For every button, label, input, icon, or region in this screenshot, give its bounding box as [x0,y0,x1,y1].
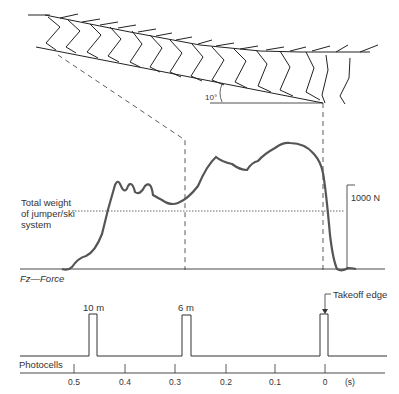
ski-jumper-sequence [28,14,378,104]
force-curve [62,143,356,270]
takeoff-label: Takeoff edge [333,289,387,300]
tick-label: 0.2 [220,377,232,387]
angle-label: 10° [205,92,217,103]
axis-ticks [74,364,325,373]
tick-label: 0 [323,377,328,387]
tick-label: 0.4 [119,377,131,387]
projection-lines [58,55,323,270]
time-unit: (s) [345,377,355,387]
weight-label-1: Total weight [21,197,71,208]
photocells-label: Photocells [19,359,63,370]
angle-arc [220,84,222,102]
tick-label: 0.1 [269,377,281,387]
tick-label: 0.3 [169,377,181,387]
tick-label: 0.5 [68,377,80,387]
force-axis-label: Fz—Force [20,273,64,284]
scale-label: 1000 N [351,193,380,204]
pulse-label-6m: 6 m [178,302,194,313]
arrowhead-icon [322,309,328,314]
photocell-signal [20,314,387,356]
weight-label-2: of jumper/ski [21,208,75,219]
pulse-label-10m: 10 m [83,302,104,313]
weight-label-3: system [21,219,51,230]
